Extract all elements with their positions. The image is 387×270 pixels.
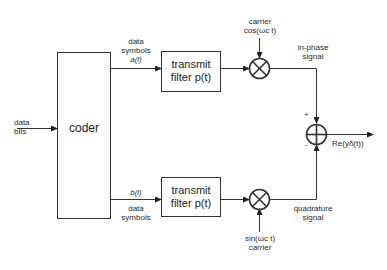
sin-carrier-label: sin(ωc t) carrier	[236, 234, 284, 252]
minus-sign: -	[305, 140, 308, 149]
bottom-symbol-var: b(l)	[114, 188, 158, 197]
coder-block	[58, 53, 111, 219]
in-phase-line2: signal	[288, 52, 338, 61]
in-phase-line1: in-phase	[288, 43, 338, 52]
top-filter-line1: transmit	[161, 58, 221, 71]
top-symbols-line2: symbols	[114, 46, 158, 55]
bottom-filter-line1: transmit	[161, 184, 221, 197]
coder-label: coder	[57, 122, 111, 135]
top-filter-line2: filter p(t)	[161, 71, 221, 84]
in-phase-path	[270, 69, 317, 124]
quadrature-line1: quadrature	[285, 204, 341, 213]
input-label: data bits	[14, 118, 30, 136]
top-multiplier-icon	[250, 59, 270, 79]
bottom-filter-label: transmit filter p(t)	[161, 184, 221, 210]
top-symbol-var: a(l)	[114, 55, 158, 64]
sin-carrier-line2: carrier	[236, 243, 284, 252]
sin-carrier-line1: sin(ωc t)	[236, 234, 284, 243]
diagram-canvas	[0, 0, 387, 270]
quadrature-path	[270, 145, 317, 200]
output-label: Re(yδ(t))	[332, 139, 364, 148]
bottom-symbols-label: data symbols	[114, 204, 158, 222]
top-symbols-line1: data	[114, 37, 158, 46]
top-filter-label: transmit filter p(t)	[161, 58, 221, 84]
bottom-filter-line2: filter p(t)	[161, 197, 221, 210]
summer-icon	[307, 125, 327, 145]
quadrature-label: quadrature signal	[285, 204, 341, 222]
cos-carrier-line2: cos(ωc t)	[236, 26, 284, 35]
input-label-line1: data	[14, 118, 30, 127]
top-symbols-label: data symbols a(l)	[114, 37, 158, 64]
bottom-multiplier-icon	[250, 190, 270, 210]
bottom-symbols-line1: data	[114, 204, 158, 213]
cos-carrier-label: carrier cos(ωc t)	[236, 17, 284, 35]
cos-carrier-line1: carrier	[236, 17, 284, 26]
input-label-line2: bits	[14, 127, 30, 136]
bottom-symbols-line2: symbols	[114, 213, 158, 222]
quadrature-line2: signal	[285, 213, 341, 222]
plus-sign: +	[304, 110, 309, 119]
in-phase-label: in-phase signal	[288, 43, 338, 61]
